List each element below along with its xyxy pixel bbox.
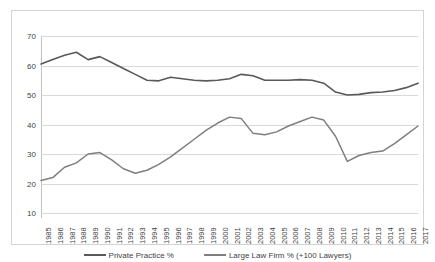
- x-tick-label-2016: 2016: [409, 227, 418, 244]
- x-tick-label-2017: 2017: [421, 227, 430, 244]
- x-tick-label-1986: 1986: [56, 227, 65, 244]
- x-tick-label-2009: 2009: [327, 227, 336, 244]
- x-tick-label-2015: 2015: [397, 227, 406, 244]
- x-tick-label-2007: 2007: [303, 227, 312, 244]
- x-tick-label-1987: 1987: [68, 227, 77, 244]
- y-tick-label-10: 10: [27, 213, 36, 214]
- legend-item-large-law-firm: Large Law Firm % (+100 Lawyers): [204, 251, 352, 260]
- y-tick-label-30: 30: [27, 154, 36, 155]
- legend-swatch-large-law-firm: [204, 254, 226, 256]
- y-tick-label-20: 20: [27, 184, 36, 185]
- chart-legend: Private Practice % Large Law Firm % (+10…: [12, 248, 423, 262]
- x-tick-label-1996: 1996: [174, 227, 183, 244]
- y-tick-label-70: 70: [27, 36, 36, 37]
- x-tick-label-1988: 1988: [79, 227, 88, 244]
- x-tick-label-1991: 1991: [115, 227, 124, 244]
- x-tick-label-1995: 1995: [162, 227, 171, 244]
- plot-area: 70605040302010: [41, 36, 418, 213]
- legend-item-private-practice: Private Practice %: [84, 251, 174, 260]
- x-tick-label-1997: 1997: [185, 227, 194, 244]
- x-tick-label-2003: 2003: [256, 227, 265, 244]
- x-tick-label-1993: 1993: [138, 227, 147, 244]
- x-tick-label-1994: 1994: [150, 227, 159, 244]
- chart-frame: 70605040302010 1985198619871988198919901…: [11, 10, 424, 245]
- y-tick-label-60: 60: [27, 66, 36, 67]
- x-tick-label-2011: 2011: [350, 228, 359, 244]
- legend-label-private-practice: Private Practice %: [109, 251, 174, 260]
- x-tick-label-2006: 2006: [291, 227, 300, 244]
- x-tick-label-2001: 2001: [233, 227, 242, 244]
- x-tick-label-1999: 1999: [209, 227, 218, 244]
- series-lines: [41, 36, 418, 213]
- x-tick-label-2000: 2000: [221, 227, 230, 244]
- y-tick-label-50: 50: [27, 95, 36, 96]
- x-axis-labels: 1985198619871988198919901991199219931994…: [41, 216, 418, 250]
- series-line-large-law-firm: [41, 117, 418, 180]
- x-tick-label-2005: 2005: [280, 227, 289, 244]
- y-tick-label-40: 40: [27, 125, 36, 126]
- x-tick-label-2010: 2010: [339, 227, 348, 244]
- x-tick-label-2014: 2014: [386, 227, 395, 244]
- x-tick-label-2004: 2004: [268, 227, 277, 244]
- x-tick-label-2002: 2002: [244, 227, 253, 244]
- x-tick-label-1992: 1992: [126, 227, 135, 244]
- x-tick-label-2013: 2013: [374, 227, 383, 244]
- gridline-10: 10: [41, 213, 418, 214]
- x-tick-label-1985: 1985: [44, 227, 53, 244]
- x-tick-label-2012: 2012: [362, 227, 371, 244]
- legend-label-large-law-firm: Large Law Firm % (+100 Lawyers): [229, 251, 352, 260]
- x-tick-label-1998: 1998: [197, 227, 206, 244]
- x-tick-label-1990: 1990: [103, 227, 112, 244]
- series-line-private-practice: [41, 52, 418, 95]
- x-tick-label-1989: 1989: [91, 227, 100, 244]
- x-tick-label-2008: 2008: [315, 227, 324, 244]
- legend-swatch-private-practice: [84, 254, 106, 256]
